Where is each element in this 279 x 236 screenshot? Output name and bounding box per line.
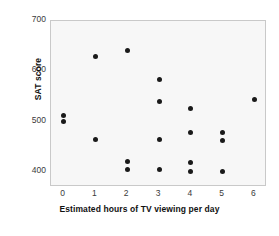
- x-axis-tick-label: 3: [148, 188, 168, 198]
- data-point: [220, 138, 225, 143]
- data-point: [125, 167, 130, 172]
- x-axis-tick-label: 5: [212, 188, 232, 198]
- y-axis-tick-label: 400: [20, 165, 46, 175]
- data-point: [125, 48, 130, 53]
- data-point: [188, 160, 193, 165]
- data-point: [157, 99, 162, 104]
- scatter-plot-figure: 400500600700 SAT score 0123456 Estimated…: [0, 0, 279, 236]
- data-point: [93, 137, 98, 142]
- data-point: [157, 77, 162, 82]
- x-axis-tick-labels: 0123456: [50, 188, 266, 202]
- data-points-layer: [51, 21, 265, 185]
- x-axis-tick-label: 1: [84, 188, 104, 198]
- data-point: [93, 54, 98, 59]
- x-axis-tick-label: 2: [116, 188, 136, 198]
- y-axis-tick-label: 700: [20, 14, 46, 24]
- x-axis-tick-label: 4: [180, 188, 200, 198]
- y-axis-title: SAT score: [33, 39, 43, 119]
- x-axis-tick-label: 6: [243, 188, 263, 198]
- plot-area: [50, 20, 266, 186]
- data-point: [61, 119, 66, 124]
- x-axis-title: Estimated hours of TV viewing per day: [0, 204, 279, 214]
- data-point: [157, 137, 162, 142]
- data-point: [188, 106, 193, 111]
- data-point: [157, 167, 162, 172]
- data-point: [220, 169, 225, 174]
- data-point: [188, 130, 193, 135]
- data-point: [61, 113, 66, 118]
- data-point: [252, 97, 257, 102]
- data-point: [125, 159, 130, 164]
- data-point: [188, 169, 193, 174]
- data-point: [220, 130, 225, 135]
- x-axis-tick-label: 0: [53, 188, 73, 198]
